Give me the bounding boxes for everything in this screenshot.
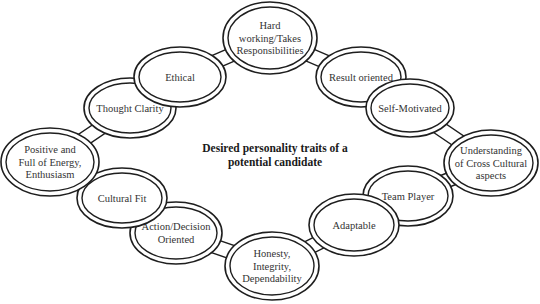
trait-label: Result oriented [329, 72, 394, 83]
trait-label: Adaptable [332, 220, 375, 231]
trait-node-honesty: Honesty,Integrity,Dependability [225, 232, 319, 300]
trait-label: Enthusiasm [26, 169, 75, 180]
trait-label: Self-Motivated [378, 103, 442, 114]
personality-traits-cycle-diagram: Hardworking/TakesResponsibilitiesResult … [0, 0, 540, 304]
trait-node-understanding-cross-cultural: Understandingof Cross Culturalaspects [444, 130, 538, 196]
trait-label: aspects [476, 170, 506, 181]
center-title-line-1: Desired personality traits of a [202, 142, 348, 155]
trait-label: Understanding [460, 145, 523, 156]
trait-label: Full of Energy, [19, 157, 82, 168]
trait-label: Dependability [242, 273, 302, 284]
trait-label: Oriented [158, 234, 195, 245]
center-title: Desired personality traits of a potentia… [202, 142, 348, 169]
trait-label: Responsibilities [236, 45, 303, 56]
trait-node-positive-energy: Positive andFull of Energy,Enthusiasm [1, 128, 99, 196]
trait-node-self-motivated: Self-Motivated [366, 79, 454, 137]
trait-label: Integrity, [253, 261, 291, 272]
trait-node-ethical: Ethical [134, 47, 226, 107]
trait-node-hard-working: Hardworking/TakesResponsibilities [223, 2, 317, 74]
center-title-line-2: potential candidate [228, 156, 322, 169]
trait-label: Thought Clarity [96, 103, 164, 114]
trait-label: Hard [260, 20, 282, 31]
trait-label: Ethical [165, 72, 195, 83]
trait-node-adaptable: Adaptable [309, 194, 399, 256]
trait-label: Team Player [382, 191, 435, 202]
trait-label: Positive and [24, 144, 76, 155]
trait-label: working/Takes [239, 33, 301, 44]
trait-label: Action/Decision [142, 221, 212, 232]
trait-label: Honesty, [254, 248, 291, 259]
trait-label: of Cross Cultural [455, 158, 527, 169]
trait-label: Cultural Fit [98, 193, 147, 204]
